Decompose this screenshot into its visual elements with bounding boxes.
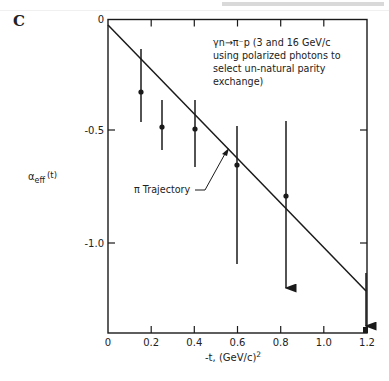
trajectory-leader-line bbox=[195, 152, 226, 190]
leader-arrow-icon bbox=[222, 148, 229, 156]
y-tick-label: -0.5 bbox=[84, 125, 104, 136]
data-point bbox=[159, 100, 164, 150]
y-tick-label: 0 bbox=[98, 14, 104, 25]
chart: 0 0.2 0.4 0.6 0.8 1.0 1.2 0 -0.5 -1.0 αe… bbox=[0, 0, 389, 381]
x-axis-label: -t, (GeV/c)2 bbox=[205, 350, 261, 363]
note-line: γn→π⁻p (3 and 16 GeV/c bbox=[213, 37, 330, 48]
note-line: using polarized photons to bbox=[213, 50, 341, 61]
note-line: exchange) bbox=[213, 76, 263, 87]
y-tick-labels: 0 -0.5 -1.0 bbox=[84, 14, 104, 249]
x-tick-label: 0 bbox=[105, 337, 111, 348]
x-tick-label: 0.4 bbox=[186, 337, 202, 348]
note-line: select un-natural parity bbox=[213, 63, 326, 74]
x-tick-labels: 0 0.2 0.4 0.6 0.8 1.0 1.2 bbox=[105, 337, 375, 348]
x-tick-label: 0.2 bbox=[143, 337, 159, 348]
x-tick-label: 0.8 bbox=[273, 337, 289, 348]
data-point bbox=[234, 126, 239, 264]
x-tick-label: 1.0 bbox=[316, 337, 332, 348]
y-axis-label: αeff(t) bbox=[28, 170, 57, 185]
x-tick-label: 1.2 bbox=[359, 337, 375, 348]
data-point-upper-limit bbox=[283, 121, 288, 288]
trajectory-label: π Trajectory bbox=[134, 184, 191, 195]
x-tick-label: 0.6 bbox=[230, 337, 246, 348]
data-point bbox=[192, 100, 197, 167]
y-tick-label: -1.0 bbox=[84, 238, 104, 249]
reaction-note: γn→π⁻p (3 and 16 GeV/c using polarized p… bbox=[213, 37, 341, 87]
